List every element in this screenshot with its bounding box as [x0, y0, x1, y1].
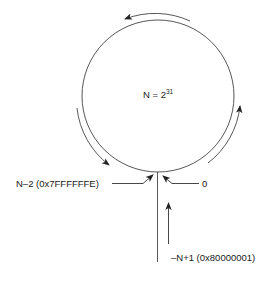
n-minus-2-label: N–2 (0x7FFFFFFE)	[16, 178, 99, 189]
zero-pointer	[163, 176, 199, 184]
wraparound-diagram	[0, 0, 272, 283]
center-label-base: N = 2	[143, 89, 166, 100]
center-label: N = 231	[143, 89, 173, 100]
center-label-exponent: 31	[166, 88, 173, 95]
zero-label: 0	[202, 178, 207, 189]
neg-n-plus-1-label: –N+1 (0x80000001)	[171, 252, 255, 263]
left-arc-arrow	[77, 108, 109, 165]
n-minus-2-pointer	[112, 175, 153, 184]
